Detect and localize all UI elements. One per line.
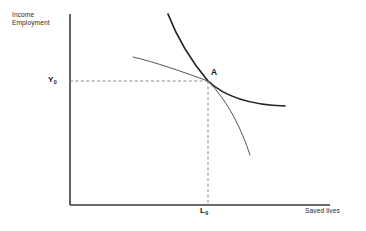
y0-tick-label: Y0: [48, 75, 56, 84]
l0-subscript: 0: [205, 210, 208, 216]
y-axis-title: Income Employment: [12, 11, 50, 27]
y0-base: Y: [48, 75, 53, 84]
transformation-curve: [133, 57, 250, 155]
indifference-curve: [168, 14, 285, 106]
economics-tangency-diagram: Income Employment Saved lives Y0 L0 A: [0, 0, 366, 231]
y0-subscript: 0: [54, 79, 57, 85]
equilibrium-point-label: A: [211, 67, 217, 77]
x-axis-title: Saved lives: [305, 207, 340, 215]
l0-tick-label: L0: [200, 206, 208, 215]
diagram-canvas: [0, 0, 366, 231]
